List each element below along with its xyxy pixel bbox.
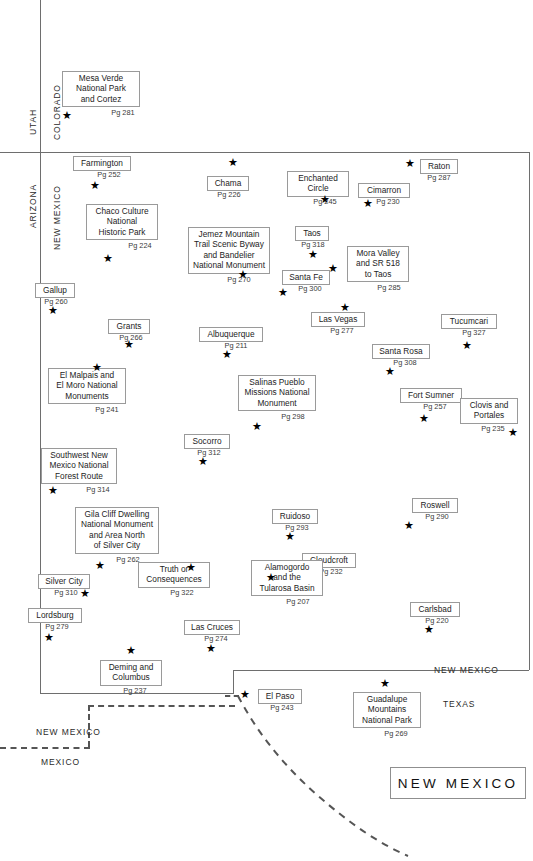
map-title: NEW MEXICO (398, 776, 519, 791)
state-label-mexico: MEXICO (41, 757, 80, 767)
border-mexico-dashed-vertical (88, 705, 90, 747)
star-marker-fort-sumner[interactable]: ★ (419, 413, 429, 424)
poi-label-chaco-culture[interactable]: Chaco Culture National Historic Park (86, 204, 158, 240)
state-label-utah: UTAH (28, 109, 38, 135)
poi-label-deming-columbus[interactable]: Deming and Columbus (100, 660, 162, 686)
star-marker-tucumcari[interactable]: ★ (462, 340, 472, 351)
poi-page-truth-consequences: Pg 322 (146, 588, 218, 597)
poi-label-enchanted-circle[interactable]: Enchanted Circle (287, 171, 349, 197)
poi-page-socorro: Pg 312 (186, 448, 232, 457)
poi-page-el-paso: Pg 243 (260, 703, 304, 712)
star-marker-alamogordo[interactable]: ★ (266, 572, 276, 583)
border-mexico-dashed-elpaso-west (225, 695, 239, 697)
star-marker-mesa-verde[interactable]: ★ (62, 110, 72, 121)
state-label-new-mexico-left: NEW MEXICO (52, 185, 62, 250)
poi-label-el-malpais[interactable]: El Malpais and El Moro National Monument… (48, 368, 126, 404)
star-marker-jemez[interactable]: ★ (238, 269, 248, 280)
star-marker-salinas-pueblo[interactable]: ★ (252, 421, 262, 432)
poi-page-guadalupe: Pg 269 (362, 729, 430, 738)
poi-page-chama: Pg 226 (208, 190, 250, 199)
poi-page-el-malpais: Pg 241 (68, 405, 146, 414)
poi-page-chaco-culture: Pg 224 (104, 241, 176, 250)
poi-page-lordsburg: Pg 279 (30, 622, 84, 631)
poi-page-fort-sumner: Pg 257 (404, 402, 466, 411)
poi-page-tucumcari: Pg 327 (446, 328, 502, 337)
poi-page-mesa-verde: Pg 281 (84, 108, 162, 117)
border-colorado-newmexico-horizontal (0, 152, 529, 153)
star-marker-raton[interactable]: ★ (405, 158, 415, 169)
poi-label-truth-consequences[interactable]: Truth or Consequences (138, 562, 210, 588)
star-marker-las-cruces[interactable]: ★ (206, 643, 216, 654)
star-marker-guadalupe[interactable]: ★ (380, 678, 390, 689)
star-marker-gila-cliff[interactable]: ★ (95, 560, 105, 571)
state-label-new-mexico-right: NEW MEXICO (434, 665, 499, 675)
poi-page-alamogordo: Pg 207 (262, 597, 334, 606)
star-marker-truth-consequences[interactable]: ★ (186, 562, 196, 573)
state-label-new-mexico-bottom: NEW MEXICO (36, 727, 101, 737)
star-marker-santa-rosa[interactable]: ★ (385, 366, 395, 377)
star-marker-cimarron[interactable]: ★ (363, 198, 373, 209)
poi-page-mora-valley: Pg 285 (358, 283, 420, 292)
star-marker-ruidoso[interactable]: ★ (285, 531, 295, 542)
star-marker-carlsbad[interactable]: ★ (424, 624, 434, 635)
star-marker-lordsburg[interactable]: ★ (44, 632, 54, 643)
poi-page-roswell: Pg 290 (414, 512, 460, 521)
poi-page-ruidoso: Pg 293 (274, 523, 320, 532)
star-marker-santa-fe[interactable]: ★ (278, 287, 288, 298)
poi-page-farmington: Pg 252 (80, 170, 138, 179)
border-newmexico-east-vertical (529, 152, 530, 670)
poi-page-carlsbad: Pg 220 (412, 616, 462, 625)
border-mexico-dashed-horizontal (88, 705, 235, 707)
poi-label-salinas-pueblo[interactable]: Salinas Pueblo Missions National Monumen… (238, 375, 316, 411)
border-mexico-dashed-southwest (0, 747, 90, 749)
poi-page-deming-columbus: Pg 237 (104, 686, 166, 695)
border-utah-colorado-vertical (40, 0, 41, 152)
poi-label-guadalupe[interactable]: Guadalupe Mountains National Park (353, 692, 421, 728)
poi-page-salinas-pueblo: Pg 298 (254, 412, 332, 421)
star-marker-socorro[interactable]: ★ (198, 456, 208, 467)
poi-label-clovis-portales[interactable]: Clovis and Portales (460, 398, 518, 424)
state-label-colorado: COLORADO (52, 84, 62, 140)
star-marker-farmington[interactable]: ★ (90, 180, 100, 191)
star-marker-grants[interactable]: ★ (124, 339, 134, 350)
star-marker-taos[interactable]: ★ (308, 249, 318, 260)
poi-label-mora-valley[interactable]: Mora Valley and SR 518 to Taos (347, 246, 409, 282)
poi-page-southwest-nm: Pg 314 (60, 485, 136, 494)
star-marker-gallup[interactable]: ★ (48, 305, 58, 316)
map-title-box: NEW MEXICO (390, 767, 526, 799)
star-marker-las-vegas[interactable]: ★ (340, 302, 350, 313)
poi-label-southwest-nm[interactable]: Southwest New Mexico National Forest Rou… (41, 448, 117, 484)
star-marker-albuquerque[interactable]: ★ (222, 349, 232, 360)
state-label-arizona: ARIZONA (28, 184, 38, 228)
poi-page-santa-fe: Pg 300 (286, 284, 334, 293)
star-marker-southwest-nm[interactable]: ★ (48, 485, 58, 496)
poi-label-jemez[interactable]: Jemez Mountain Trail Scenic Byway and Ba… (188, 227, 270, 274)
star-marker-el-paso[interactable]: ★ (240, 689, 250, 700)
star-marker-deming-columbus[interactable]: ★ (126, 645, 136, 656)
poi-page-las-vegas: Pg 277 (315, 326, 369, 335)
new-mexico-overview-map: UTAHCOLORADOARIZONANEW MEXICONEW MEXICOT… (0, 0, 533, 861)
poi-label-alamogordo[interactable]: Alamogordo and the Tularosa Basin (251, 560, 323, 596)
star-marker-roswell[interactable]: ★ (404, 520, 414, 531)
star-marker-chaco-culture[interactable]: ★ (103, 253, 113, 264)
star-marker-silver-city[interactable]: ★ (80, 588, 90, 599)
star-marker-clovis-portales[interactable]: ★ (508, 427, 518, 438)
poi-page-las-cruces: Pg 274 (188, 634, 244, 643)
poi-page-raton: Pg 287 (420, 173, 458, 182)
star-marker-chama[interactable]: ★ (228, 157, 238, 168)
poi-page-albuquerque: Pg 211 (204, 341, 268, 350)
star-marker-el-malpais[interactable]: ★ (92, 362, 102, 373)
state-label-texas: TEXAS (443, 699, 475, 709)
poi-label-gila-cliff[interactable]: Gila Cliff Dwelling National Monument an… (75, 507, 159, 554)
poi-label-mesa-verde[interactable]: Mesa Verde National Park and Cortez (62, 71, 140, 107)
star-marker-enchanted-circle[interactable]: ★ (320, 194, 330, 205)
